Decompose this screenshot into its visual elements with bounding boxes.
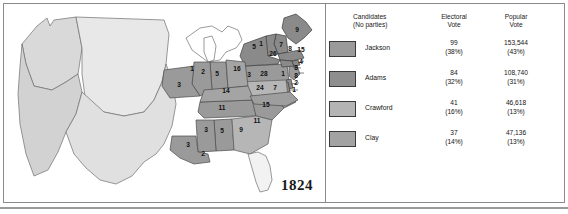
map-label-georgia: 11 — [254, 117, 261, 124]
legend-row-clay[interactable]: Clay37 (14%)47,136 (13%) — [326, 128, 564, 158]
electoral-vote-clay: 37 (14%) — [430, 129, 478, 146]
map-label-indiana: 5 — [215, 70, 219, 77]
map-label-maryland: 8 — [294, 72, 298, 79]
map-label-illinois-1: 1 — [190, 65, 194, 72]
header-popular-vote: Popular Vote — [489, 13, 543, 30]
map-label-louisiana-2: 2 — [201, 150, 205, 157]
map-label-new-hampshire: 7 — [279, 41, 283, 48]
election-map-figure: 9751152684828182171652131411241511533293… — [0, 0, 568, 214]
legend-swatch-jackson — [329, 41, 356, 57]
map-label-maine: 9 — [295, 26, 299, 33]
map-label-virginia: 7 — [273, 84, 277, 91]
legend-row-adams[interactable]: Adams84 (32%)108,740 (31%) — [326, 68, 564, 98]
map-label-virginia-w: 3 — [247, 71, 251, 78]
map-label-missouri: 3 — [177, 81, 181, 88]
candidate-name-jackson: Jackson — [365, 44, 390, 51]
map-panel: 9751152684828182171652131411241511533293… — [4, 4, 325, 202]
state-indiana — [210, 62, 228, 90]
candidate-name-clay: Clay — [365, 134, 379, 141]
state-mississippi — [196, 120, 216, 152]
map-label-north-carolina: 24 — [256, 84, 264, 91]
candidate-name-crawford: Crawford — [365, 104, 393, 111]
map-label-delaware: 1 — [281, 70, 285, 77]
popular-vote-adams: 108,740 (31%) — [489, 69, 543, 86]
popular-vote-crawford: 46,618 (13%) — [489, 99, 543, 116]
state-georgia — [232, 116, 272, 154]
map-label-vermont: 5 — [252, 43, 256, 50]
legend-row-jackson[interactable]: Jackson99 (38%)153,544 (43%) — [326, 38, 564, 68]
map-label-louisiana: 3 — [186, 141, 190, 148]
electoral-vote-jackson: 99 (38%) — [430, 39, 478, 56]
map-label-vermont-alt: 1 — [259, 40, 263, 47]
map-label-kentucky: 14 — [222, 87, 230, 94]
electoral-vote-crawford: 41 (16%) — [430, 99, 478, 116]
map-label-pennsylvania: 28 — [260, 70, 268, 77]
candidate-name-adams: Adams — [365, 74, 386, 81]
map-label-massachusetts: 15 — [297, 46, 305, 53]
legend-swatch-crawford — [329, 101, 356, 117]
map-label-illinois: 2 — [201, 68, 205, 75]
electoral-vote-adams: 84 (32%) — [430, 69, 478, 86]
map-label-south-carolina: 15 — [262, 101, 270, 108]
us-electoral-map: 9751152684828182171652131411241511533293 — [4, 4, 325, 202]
territory-florida — [248, 152, 272, 192]
bottom-rule — [0, 207, 568, 209]
popular-vote-clay: 47,136 (13%) — [489, 129, 543, 146]
map-label-maryland-3: 1 — [292, 86, 296, 93]
map-label-mississippi: 3 — [204, 126, 208, 133]
legend-row-crawford[interactable]: Crawford41 (16%)46,618 (13%) — [326, 98, 564, 128]
legend-panel: Candidates (No parties) Electoral Vote P… — [326, 4, 564, 202]
popular-vote-jackson: 153,544 (43%) — [489, 39, 543, 56]
legend-swatch-adams — [329, 71, 356, 87]
state-tennessee — [198, 100, 256, 118]
map-label-rhode-island: 4 — [299, 58, 303, 65]
header-electoral-vote: Electoral Vote — [430, 13, 478, 30]
legend-swatch-clay — [329, 131, 356, 147]
map-label-georgia-2: 9 — [239, 126, 243, 133]
map-label-connecticut: 8 — [288, 45, 292, 52]
header-candidates: Candidates (No parties) — [353, 13, 387, 30]
year-label: 1824 — [281, 177, 313, 194]
legend-header-row: Candidates (No parties) Electoral Vote P… — [326, 13, 564, 37]
map-label-new-york: 26 — [269, 50, 277, 57]
map-label-alabama: 5 — [220, 127, 224, 134]
map-label-maryland-2: 2 — [294, 79, 298, 86]
map-label-new-jersey: 8 — [294, 64, 298, 71]
map-label-tennessee: 11 — [219, 104, 226, 111]
map-label-ohio: 16 — [233, 65, 241, 72]
state-alabama — [214, 119, 234, 151]
